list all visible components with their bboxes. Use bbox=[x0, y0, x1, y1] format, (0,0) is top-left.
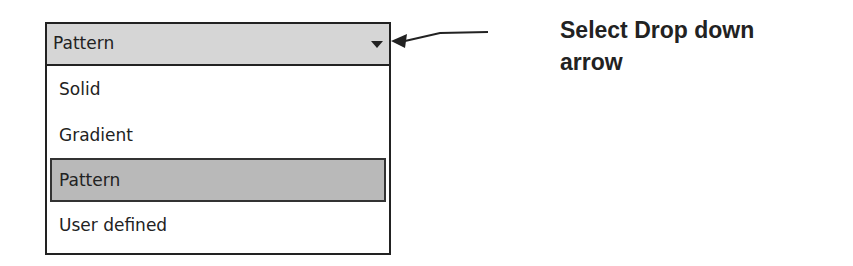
dropdown-option-solid[interactable]: Solid bbox=[47, 66, 389, 112]
callout-line-2: arrow bbox=[560, 46, 850, 78]
fill-type-dropdown[interactable]: Pattern Solid Gradient Pattern User defi… bbox=[45, 22, 391, 255]
callout-line-1: Select Drop down bbox=[560, 14, 850, 46]
dropdown-option-gradient[interactable]: Gradient bbox=[47, 112, 389, 158]
dropdown-header[interactable]: Pattern bbox=[47, 24, 389, 66]
dropdown-selected-value: Pattern bbox=[53, 33, 114, 53]
dropdown-option-pattern[interactable]: Pattern bbox=[50, 158, 386, 202]
callout-annotation: Select Drop down arrow bbox=[560, 14, 850, 78]
dropdown-option-user-defined[interactable]: User defined bbox=[47, 202, 389, 248]
dropdown-options-list: Solid Gradient Pattern User defined bbox=[47, 66, 389, 248]
chevron-down-icon[interactable] bbox=[371, 41, 383, 48]
